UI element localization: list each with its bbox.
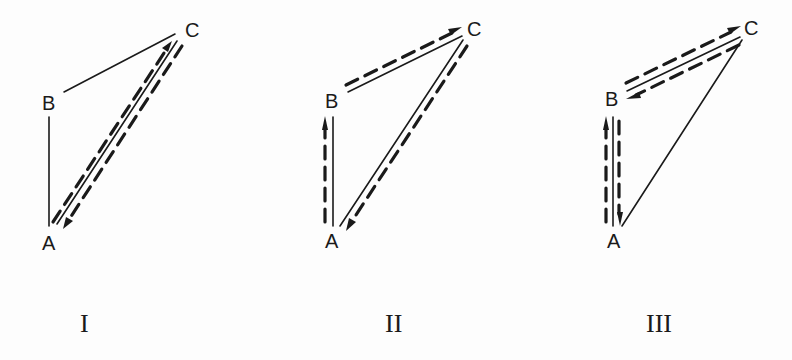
edge-b-c xyxy=(627,37,740,91)
edge-b-c xyxy=(348,36,462,92)
vertex-label-a: A xyxy=(607,230,621,252)
arrowhead-icon xyxy=(603,116,609,130)
diagram-1: B A C I xyxy=(42,19,199,338)
edge-a-c xyxy=(622,40,742,226)
vertex-label-a: A xyxy=(42,232,56,254)
diagram-numeral: II xyxy=(385,309,402,338)
arrowhead-icon xyxy=(63,217,73,229)
vertex-label-c: C xyxy=(185,19,199,41)
vertex-label-c: C xyxy=(467,18,481,40)
diagram-numeral: III xyxy=(646,309,672,338)
diagram-numeral: I xyxy=(80,309,89,338)
arrowhead-icon xyxy=(617,212,623,226)
triangle-path-diagrams: B A C I B A C II xyxy=(0,0,792,360)
path-c-to-a xyxy=(68,46,182,221)
vertex-label-c: C xyxy=(744,17,758,39)
arrowhead-icon xyxy=(346,218,356,231)
arrowhead-icon xyxy=(626,92,641,99)
edge-a-c xyxy=(57,41,177,224)
arrowhead-icon xyxy=(322,116,328,130)
edge-a-c xyxy=(340,40,463,226)
vertex-label-b: B xyxy=(42,92,55,114)
vertex-label-a: A xyxy=(325,230,339,252)
path-b-to-c xyxy=(346,33,452,85)
vertex-label-b: B xyxy=(325,90,338,112)
path-a-to-c xyxy=(53,47,168,222)
diagram-3: B A C III xyxy=(603,17,758,338)
vertex-label-b: B xyxy=(605,88,618,110)
diagram-2: B A C II xyxy=(322,18,481,338)
